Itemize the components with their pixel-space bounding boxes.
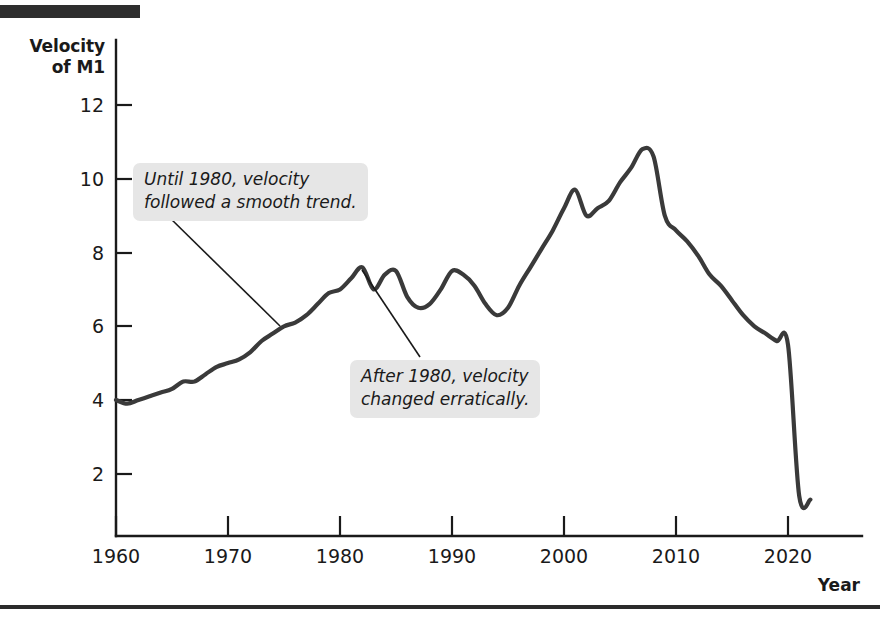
y-tick-label-2: 2: [92, 463, 104, 485]
x-tick-label-1970: 1970: [204, 545, 252, 567]
x-axis-title: Year: [770, 575, 860, 595]
x-tick-label-2000: 2000: [540, 545, 588, 567]
x-tick-label-1980: 1980: [316, 545, 364, 567]
y-tick-label-10: 10: [80, 168, 104, 190]
bottom-rule: [0, 605, 880, 609]
y-axis-ticks: [116, 105, 132, 474]
annotation-callout-until-1980: Until 1980, velocity followed a smooth t…: [133, 163, 368, 221]
annotation-callout-after-1980: After 1980, velocity changed erratically…: [350, 360, 540, 418]
callout-1-leader-line: [167, 215, 280, 326]
callout-2-leader-line: [362, 270, 420, 357]
callout-1-line1: Until 1980, velocity: [144, 169, 309, 189]
y-tick-label-6: 6: [92, 315, 104, 337]
x-tick-label-1960: 1960: [92, 545, 140, 567]
callout-2-line1: After 1980, velocity: [361, 366, 529, 386]
callout-2-line2: changed erratically.: [361, 388, 529, 411]
velocity-of-m1-line-chart: 12 10 8 6 4 2 1960 1970 1980 1990 2000 2…: [0, 0, 880, 624]
y-tick-label-12: 12: [80, 94, 104, 116]
callout-1-line2: followed a smooth trend.: [144, 191, 357, 214]
y-tick-label-4: 4: [92, 389, 104, 411]
y-tick-label-8: 8: [92, 242, 104, 264]
x-tick-label-1990: 1990: [428, 545, 476, 567]
y-axis-tick-labels: 12 10 8 6 4 2: [80, 94, 104, 485]
x-axis-tick-labels: 1960 1970 1980 1990 2000 2010 2020: [92, 545, 812, 567]
x-tick-label-2020: 2020: [764, 545, 812, 567]
x-tick-label-2010: 2010: [652, 545, 700, 567]
x-axis-ticks: [116, 516, 788, 536]
